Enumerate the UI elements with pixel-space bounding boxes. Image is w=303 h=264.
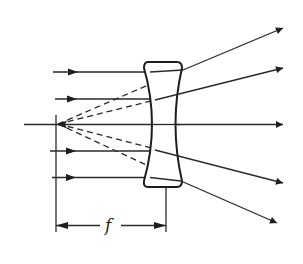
dimension-arrow-right-icon bbox=[154, 222, 166, 229]
arrowhead-icon bbox=[68, 69, 78, 76]
dimension-arrow-left-icon bbox=[56, 222, 68, 229]
focal-length-dimension: f bbox=[56, 186, 166, 235]
arrowhead-icon bbox=[66, 148, 76, 155]
arrowhead-icon bbox=[67, 96, 77, 103]
arrowhead-icon bbox=[66, 174, 76, 181]
focal-length-label: f bbox=[103, 215, 114, 235]
diverging-lens-diagram: f bbox=[0, 0, 303, 264]
